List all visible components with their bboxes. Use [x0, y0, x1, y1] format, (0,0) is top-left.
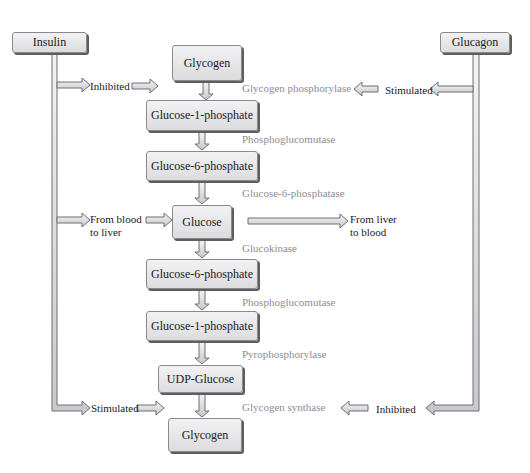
- glucagon-inhibited-label: Inhibited: [376, 403, 416, 416]
- down-arrow-7: [195, 394, 209, 417]
- pathway-box-glucose-6-phosphate: Glucose-6-phosphate: [146, 151, 258, 181]
- insulin-box: Insulin: [12, 32, 87, 53]
- from-blood-label-line1: From blood: [90, 213, 142, 226]
- glucagon-connector: [426, 52, 479, 415]
- pathway-label: Glycogen: [182, 428, 229, 443]
- pathway-box-glycogen-bottom: Glycogen: [168, 418, 242, 452]
- glucagon-box: Glucagon: [440, 32, 510, 53]
- down-arrow-6: [195, 342, 209, 364]
- pathway-label: Glycogen: [184, 56, 231, 71]
- pathway-label: Glucose-1-phosphate: [151, 319, 253, 334]
- insulin-label: Insulin: [33, 35, 66, 50]
- enzyme-phosphoglucomutase-2: Phosphoglucomutase: [242, 296, 336, 308]
- pathway-box-glycogen-top: Glycogen: [172, 45, 242, 81]
- stimulated-arrow-left: [354, 82, 378, 96]
- glucagon-branch-top-arrow: [430, 82, 473, 96]
- from-blood-arrow-right: [146, 213, 172, 227]
- pathway-box-glucose-1-phosphate-2: Glucose-1-phosphate: [146, 311, 258, 341]
- down-arrow-5: [195, 290, 209, 310]
- pathway-box-glucose: Glucose: [172, 205, 232, 239]
- down-arrow-1: [199, 82, 213, 100]
- down-arrow-2: [195, 132, 209, 150]
- down-arrow-4: [195, 240, 209, 258]
- from-liver-label-line2: to blood: [350, 226, 386, 239]
- enzyme-phosphoglucomutase: Phosphoglucomutase: [242, 133, 336, 145]
- inhibited-arrow-left: [341, 401, 368, 415]
- pathway-label: Glucose-6-phosphate: [151, 159, 253, 174]
- insulin-stimulated-label: Stimulated: [91, 402, 139, 415]
- glucagon-label: Glucagon: [452, 35, 499, 50]
- enzyme-glycogen-synthase: Glycogen synthase: [242, 401, 325, 413]
- insulin-branch-mid-arrow: [57, 213, 90, 227]
- enzyme-glucose-6-phosphatase: Glucose-6-phosphatase: [242, 187, 345, 199]
- from-liver-label-line1: From liver: [350, 213, 397, 226]
- down-arrow-3: [195, 182, 209, 204]
- inhibited-arrow-right: [132, 79, 158, 93]
- pathway-label: Glucose-1-phosphate: [151, 108, 253, 123]
- from-blood-label-line2: to liver: [90, 226, 121, 239]
- pathway-label: UDP-Glucose: [167, 372, 234, 387]
- enzyme-glucokinase: Glucokinase: [242, 242, 297, 254]
- stimulated-arrow-right: [137, 401, 164, 415]
- enzyme-glycogen-phosphorylase: Glycogen phosphorylase: [242, 82, 351, 94]
- glucagon-stimulated-label: Stimulated: [385, 84, 433, 97]
- pathway-box-glucose-1-phosphate: Glucose-1-phosphate: [146, 100, 258, 131]
- insulin-connector: [52, 42, 90, 415]
- pathway-box-udp-glucose: UDP-Glucose: [158, 365, 243, 393]
- pathway-label: Glucose: [182, 215, 221, 230]
- enzyme-pyrophosphorylase: Pyrophosphorylase: [242, 348, 326, 360]
- glucose-out-arrow: [248, 214, 348, 228]
- pathway-label: Glucose-6-phosphate: [151, 267, 253, 282]
- insulin-inhibited-label: Inhibited: [90, 80, 130, 93]
- insulin-branch-top-arrow: [57, 78, 90, 92]
- pathway-box-glucose-6-phosphate-2: Glucose-6-phosphate: [146, 259, 258, 289]
